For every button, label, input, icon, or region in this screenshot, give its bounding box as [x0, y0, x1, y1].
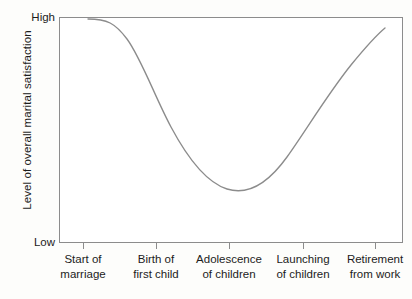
x-tick-2: [156, 243, 157, 249]
x-label-line1: Retirement: [327, 252, 412, 267]
x-label-retirement-from-work: Retirement from work: [327, 252, 412, 282]
x-label-line2: from work: [327, 267, 412, 282]
x-tick-3: [229, 243, 230, 249]
satisfaction-curve: [59, 17, 403, 243]
x-tick-4: [303, 243, 304, 249]
curve-path: [88, 19, 385, 191]
x-axis-ticks: [0, 243, 412, 249]
y-tick-label-high: High: [13, 11, 55, 24]
y-axis-title: Level of overall marital satisfaction: [18, 0, 36, 243]
x-tick-1: [83, 243, 84, 249]
marital-satisfaction-chart: Level of overall marital satisfaction Hi…: [0, 0, 412, 299]
x-tick-5: [375, 243, 376, 249]
x-axis-labels: Start of marriage Birth of first child A…: [0, 252, 412, 292]
